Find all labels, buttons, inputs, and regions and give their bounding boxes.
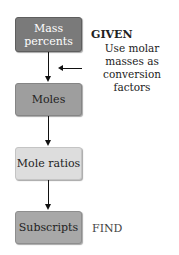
step-label: Mole ratios — [17, 157, 80, 170]
step-label: Subscripts — [19, 221, 78, 234]
step-label: Moles — [32, 93, 66, 106]
step-moles: Moles — [15, 83, 82, 116]
connector-line-1 — [48, 52, 49, 77]
connector-line-2 — [48, 116, 49, 141]
conversion-note: Use molar masses as conversion factors — [90, 42, 174, 94]
connector-line-3 — [48, 180, 49, 205]
find-label: FIND — [92, 222, 122, 235]
step-mass-percents: Mass percents — [15, 17, 82, 52]
pointer-line — [62, 68, 82, 69]
arrow-left-icon — [58, 65, 63, 71]
step-subscripts: Subscripts — [15, 211, 82, 244]
arrow-down-icon — [45, 140, 51, 146]
given-label: GIVEN — [91, 28, 133, 41]
step-mole-ratios: Mole ratios — [15, 147, 82, 180]
step-label: Mass percents — [16, 22, 81, 48]
arrow-down-icon — [45, 76, 51, 82]
arrow-down-icon — [45, 204, 51, 210]
